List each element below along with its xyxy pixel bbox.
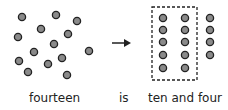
ones-dot (206, 14, 213, 21)
label-is: is (119, 91, 129, 105)
dot (30, 48, 37, 55)
ten-group-dot (181, 14, 188, 21)
dot (37, 25, 44, 32)
ten-group-dot (159, 38, 166, 45)
ten-group-dot (181, 38, 188, 45)
label-ten-and-four: ten and four (148, 91, 222, 105)
ones-dot (206, 26, 213, 33)
dot (73, 17, 80, 24)
dot (18, 13, 25, 20)
grouped-dots (159, 14, 213, 71)
dot (58, 54, 65, 61)
ones-dot (206, 51, 213, 58)
dot (14, 33, 21, 40)
scattered-dots (14, 11, 92, 78)
dot (44, 60, 51, 67)
dot (63, 71, 70, 78)
ten-group-dot (159, 51, 166, 58)
dot (64, 30, 71, 37)
ten-group-dot (181, 64, 188, 71)
dot (15, 57, 22, 64)
ten-group-dot (159, 14, 166, 21)
dot (85, 47, 92, 54)
arrow-icon (112, 39, 131, 47)
ones-dot (206, 38, 213, 45)
label-fourteen: fourteen (29, 91, 80, 105)
ten-group-dot (159, 64, 166, 71)
ten-group-box (152, 7, 197, 80)
ten-group-dot (159, 26, 166, 33)
dot (50, 40, 57, 47)
ten-group-dot (181, 51, 188, 58)
dot (24, 68, 31, 75)
ten-group-dot (181, 26, 188, 33)
dot (52, 11, 59, 18)
